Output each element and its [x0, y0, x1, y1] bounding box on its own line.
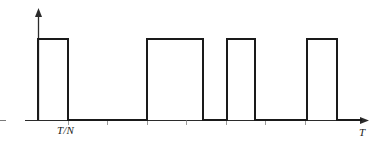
vertical-axis-arrowhead — [35, 8, 42, 17]
x-axis-tick-marks — [69, 121, 306, 126]
pulse-train-waveform — [38, 39, 362, 120]
pulse-width-label: T/N — [57, 124, 74, 136]
pulse-train-figure: T/N T — [0, 0, 389, 147]
x-axis-label: T — [359, 126, 365, 138]
